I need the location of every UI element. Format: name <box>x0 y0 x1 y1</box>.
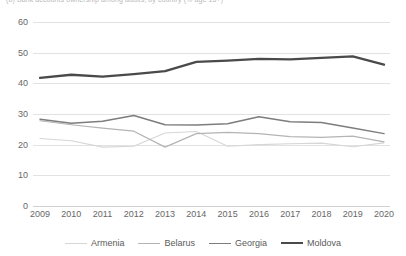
series-line-armenia <box>40 131 384 147</box>
legend-swatch-moldova <box>281 242 303 244</box>
legend-item-moldova[interactable]: Moldova <box>281 238 341 248</box>
legend-item-georgia[interactable]: Georgia <box>209 238 267 248</box>
series-line-moldova <box>40 56 384 77</box>
legend-swatch-belarus <box>138 243 160 244</box>
line-chart: (b) Bank accounts ownership among adults… <box>0 0 406 256</box>
legend-label: Armenia <box>91 238 125 248</box>
legend-swatch-georgia <box>209 243 231 244</box>
legend-label: Moldova <box>307 238 341 248</box>
legend-label: Georgia <box>235 238 267 248</box>
series-line-georgia <box>40 116 384 134</box>
legend-label: Belarus <box>164 238 195 248</box>
plot-area: 0102030405060 20092010201120122013201420… <box>0 0 406 230</box>
legend-swatch-armenia <box>65 243 87 244</box>
legend-item-belarus[interactable]: Belarus <box>138 238 195 248</box>
chart-legend: ArmeniaBelarusGeorgiaMoldova <box>0 232 406 254</box>
legend-item-armenia[interactable]: Armenia <box>65 238 125 248</box>
data-series-group <box>0 0 406 230</box>
